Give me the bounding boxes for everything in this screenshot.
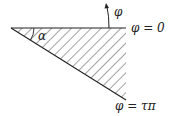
phi-arrow-label: φ — [114, 5, 123, 19]
lower-boundary-label: φ = τπ — [115, 99, 157, 113]
arrowhead-icon — [105, 3, 110, 9]
angle-label: α — [38, 29, 46, 43]
phi-direction-arrow — [105, 3, 110, 28]
upper-boundary-label: φ = 0 — [131, 21, 165, 35]
wedge-diagram: α φ φ = 0 φ = τπ — [0, 0, 171, 116]
